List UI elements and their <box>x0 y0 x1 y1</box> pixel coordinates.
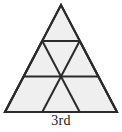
triangle-outline-shape <box>5 5 117 112</box>
figure-container: 3rd <box>0 0 122 132</box>
figure-caption: 3rd <box>0 112 122 130</box>
